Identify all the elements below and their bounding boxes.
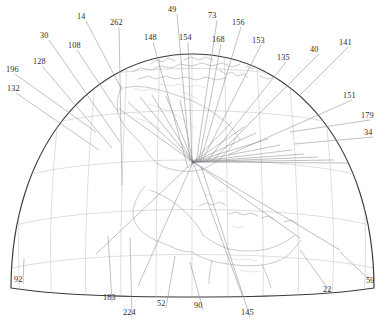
callout-label-179: 179 bbox=[361, 111, 374, 120]
callout-label-108: 108 bbox=[68, 41, 81, 50]
callout-label-224: 224 bbox=[123, 308, 136, 317]
leader-line-141 bbox=[300, 47, 348, 95]
callout-label-154: 154 bbox=[179, 33, 192, 42]
callout-label-128: 128 bbox=[33, 57, 46, 66]
leader-line-14 bbox=[86, 21, 122, 90]
callout-label-132: 132 bbox=[7, 84, 20, 93]
callout-label-183: 183 bbox=[103, 293, 116, 302]
callout-141: 141 bbox=[300, 38, 352, 95]
callout-label-40: 40 bbox=[310, 45, 318, 54]
callout-label-34: 34 bbox=[364, 128, 372, 137]
callout-label-141: 141 bbox=[339, 38, 352, 47]
callout-label-262: 262 bbox=[110, 18, 123, 27]
patent-figure-canvas: 1961321283010814262148491547316815615313… bbox=[0, 0, 385, 330]
callout-label-156: 156 bbox=[232, 18, 245, 27]
ray-convergence-node bbox=[192, 161, 195, 164]
callout-label-22: 22 bbox=[323, 285, 331, 294]
callout-label-90: 90 bbox=[194, 301, 202, 310]
globe-outline bbox=[11, 54, 374, 297]
callout-label-148: 148 bbox=[144, 33, 157, 42]
callout-label-153: 153 bbox=[252, 36, 265, 45]
callout-label-30: 30 bbox=[40, 31, 48, 40]
figure-svg: 1961321283010814262148491547316815615313… bbox=[0, 0, 385, 330]
callout-label-59: 59 bbox=[366, 276, 374, 285]
callout-label-135: 135 bbox=[277, 53, 290, 62]
callout-label-92: 92 bbox=[14, 275, 22, 284]
callout-label-145: 145 bbox=[241, 308, 254, 317]
callout-label-14: 14 bbox=[77, 12, 85, 21]
callout-label-73: 73 bbox=[208, 11, 216, 20]
callout-label-168: 168 bbox=[212, 35, 225, 44]
callout-label-49: 49 bbox=[168, 5, 176, 14]
callout-label-196: 196 bbox=[6, 65, 19, 74]
globe bbox=[11, 45, 374, 308]
callout-label-52: 52 bbox=[157, 299, 165, 308]
callout-label-151: 151 bbox=[343, 91, 356, 100]
